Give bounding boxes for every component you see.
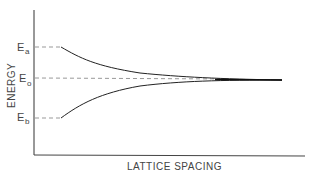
converged-band (215, 80, 282, 81)
e0-dashed-line (35, 78, 230, 79)
svg-text:E: E (17, 41, 24, 53)
lower-band-curve (61, 80, 282, 118)
label-ea: E a (17, 41, 30, 56)
upper-band-curve (61, 47, 282, 80)
label-eb: E b (17, 111, 30, 126)
y-axis-title: ENERGY (6, 63, 17, 108)
svg-text:o: o (27, 79, 32, 88)
label-e0: E o (19, 72, 32, 88)
svg-text:E: E (17, 111, 24, 123)
x-axis (34, 155, 305, 156)
energy-diagram: E a E o E b ENERGY LATTICE SPACING (0, 0, 313, 178)
x-axis-title: LATTICE SPACING (127, 161, 222, 172)
svg-text:a: a (25, 47, 30, 56)
svg-text:b: b (25, 117, 30, 126)
svg-text:E: E (19, 72, 26, 84)
